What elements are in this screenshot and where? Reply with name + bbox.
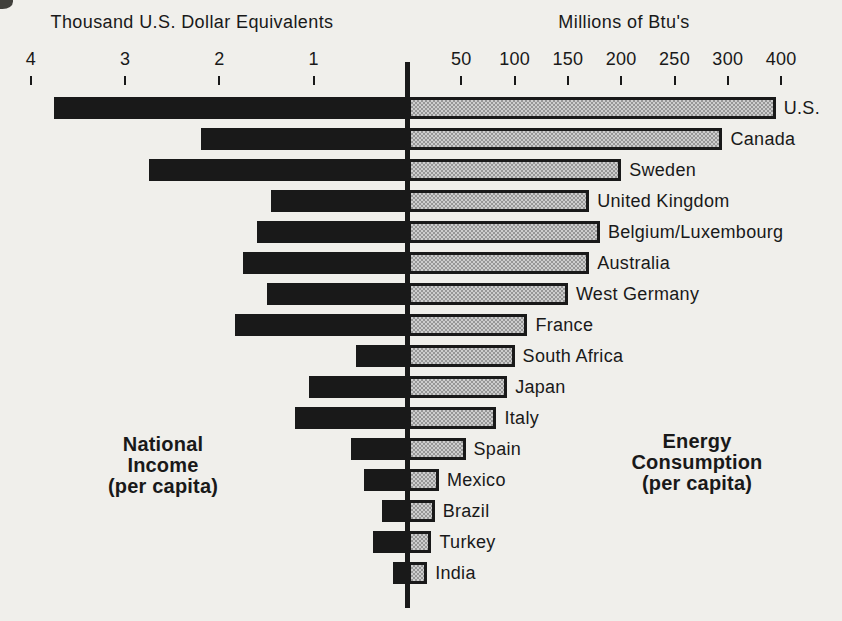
energy-bar — [408, 438, 466, 460]
axis-tick-label: 300 — [706, 49, 750, 70]
income-bar — [351, 438, 408, 460]
income-bar — [295, 407, 408, 429]
axis-tick-label: 50 — [439, 49, 483, 70]
axis-tick-mark — [567, 76, 569, 85]
energy-bar — [408, 376, 507, 398]
energy-bar — [408, 531, 431, 553]
right-caption: Energy Consumption (per capita) — [587, 431, 807, 494]
energy-bar — [408, 97, 776, 119]
axis-tick-mark — [218, 76, 220, 85]
energy-bar — [408, 562, 427, 584]
income-bar — [201, 128, 408, 150]
axis-tick-mark — [514, 76, 516, 85]
income-bar — [271, 190, 408, 212]
country-label: Brazil — [443, 500, 490, 522]
country-label: Italy — [504, 407, 539, 429]
axis-tick-label: 400 — [759, 49, 803, 70]
energy-bar — [408, 283, 568, 305]
axis-tick-mark — [620, 76, 622, 85]
country-label: Turkey — [439, 531, 495, 553]
left-axis-title: Thousand U.S. Dollar Equivalents — [47, 12, 337, 34]
axis-tick-mark — [460, 76, 462, 85]
income-bar — [267, 283, 408, 305]
scan-artifact-mark — [0, 0, 13, 9]
country-label: Mexico — [447, 469, 506, 491]
axis-tick-label: 1 — [292, 49, 336, 70]
income-bar — [257, 221, 408, 243]
axis-tick-mark — [780, 76, 782, 85]
country-label: Belgium/Luxembourg — [608, 221, 784, 243]
income-bar — [243, 252, 408, 274]
income-bar — [356, 345, 408, 367]
energy-bar — [408, 345, 515, 367]
energy-bar — [408, 128, 722, 150]
axis-tick-mark — [674, 76, 676, 85]
country-label: France — [535, 314, 593, 336]
energy-bar — [408, 159, 621, 181]
axis-tick-label: 150 — [546, 49, 590, 70]
chart-page: Thousand U.S. Dollar Equivalents Million… — [0, 0, 842, 621]
energy-bar — [408, 190, 589, 212]
income-bar — [373, 531, 408, 553]
axis-tick-label: 200 — [599, 49, 643, 70]
axis-tick-label: 3 — [103, 49, 147, 70]
energy-bar — [408, 252, 589, 274]
country-label: U.S. — [784, 97, 820, 119]
left-caption: National Income (per capita) — [53, 434, 273, 497]
axis-tick-mark — [313, 76, 315, 85]
country-label: Japan — [515, 376, 566, 398]
income-bar — [364, 469, 408, 491]
country-label: United Kingdom — [597, 190, 729, 212]
energy-bar — [408, 407, 496, 429]
country-label: West Germany — [576, 283, 699, 305]
axis-tick-label: 250 — [653, 49, 697, 70]
income-bar — [149, 159, 408, 181]
country-label: Canada — [730, 128, 795, 150]
axis-tick-mark — [124, 76, 126, 85]
energy-bar — [408, 221, 600, 243]
income-bar — [309, 376, 408, 398]
energy-bar — [408, 469, 439, 491]
axis-tick-label: 4 — [9, 49, 53, 70]
country-label: Australia — [597, 252, 670, 274]
axis-tick-label: 100 — [493, 49, 537, 70]
axis-tick-mark — [30, 76, 32, 85]
income-bar — [235, 314, 408, 336]
income-bar — [54, 97, 408, 119]
axis-tick-mark — [727, 76, 729, 85]
axis-tick-label: 2 — [197, 49, 241, 70]
country-label: India — [435, 562, 476, 584]
country-label: Sweden — [629, 159, 696, 181]
energy-bar — [408, 314, 527, 336]
country-label: Spain — [474, 438, 522, 460]
country-label: South Africa — [523, 345, 624, 367]
center-axis-line — [405, 62, 410, 608]
energy-bar — [408, 500, 435, 522]
right-axis-title: Millions of Btu's — [534, 12, 714, 34]
